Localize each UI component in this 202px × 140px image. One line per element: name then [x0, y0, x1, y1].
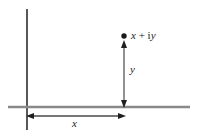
complex-plane-diagram: x + iy y x [0, 0, 202, 140]
imaginary-measure-arrowhead-up [121, 40, 127, 48]
diagram-canvas [0, 0, 202, 140]
point-label-imaginary: y [151, 29, 156, 41]
real-measure-label: x [72, 118, 77, 129]
point-label-plus: + [136, 29, 148, 41]
complex-point-label: x + iy [131, 30, 156, 41]
imaginary-measure-label: y [130, 64, 135, 75]
complex-point-dot [121, 33, 126, 38]
real-measure-arrowhead-right [118, 113, 126, 119]
